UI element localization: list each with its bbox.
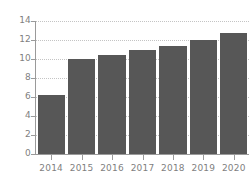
bar bbox=[98, 55, 125, 154]
y-axis-tick-label: 2 bbox=[5, 130, 31, 139]
x-axis-tick-mark bbox=[112, 155, 113, 160]
bar bbox=[38, 95, 65, 154]
x-axis-tick-mark bbox=[234, 155, 235, 160]
x-axis-tick-label: 2020 bbox=[219, 163, 249, 173]
bar bbox=[68, 59, 95, 154]
bar bbox=[220, 33, 247, 154]
y-axis-tick-label: 14 bbox=[5, 16, 31, 25]
y-axis-tick-mark bbox=[31, 21, 36, 22]
x-axis-tick-label: 2019 bbox=[188, 163, 218, 173]
x-axis-tick-mark bbox=[173, 155, 174, 160]
x-axis-tick-mark bbox=[143, 155, 144, 160]
y-axis-tick-mark bbox=[31, 97, 36, 98]
x-axis-tick-label: 2016 bbox=[97, 163, 127, 173]
bar-chart: 02468101214 2014201520162017201820192020 bbox=[0, 0, 251, 184]
y-axis-tick-mark bbox=[31, 135, 36, 136]
bar bbox=[129, 50, 156, 154]
y-axis: 02468101214 bbox=[0, 0, 31, 184]
y-axis-tick-mark bbox=[31, 59, 36, 60]
y-axis-tick-mark bbox=[31, 116, 36, 117]
y-axis-tick-label: 4 bbox=[5, 111, 31, 120]
y-axis-tick-label: 10 bbox=[5, 54, 31, 63]
gridline bbox=[36, 21, 249, 22]
y-axis-tick-mark bbox=[31, 40, 36, 41]
plot-area bbox=[36, 21, 249, 154]
x-axis-tick-mark bbox=[51, 155, 52, 160]
y-axis-tick-label: 12 bbox=[5, 35, 31, 44]
y-axis-tick-label: 8 bbox=[5, 73, 31, 82]
x-axis-tick-mark bbox=[82, 155, 83, 160]
y-axis-tick-label: 6 bbox=[5, 92, 31, 101]
y-axis-tick-mark bbox=[31, 78, 36, 79]
y-axis-tick-label: 0 bbox=[5, 149, 31, 158]
x-axis-tick-label: 2015 bbox=[66, 163, 96, 173]
x-axis-tick-label: 2017 bbox=[127, 163, 157, 173]
y-axis-tick-mark bbox=[31, 154, 36, 155]
bar bbox=[190, 40, 217, 154]
x-axis-tick-label: 2018 bbox=[158, 163, 188, 173]
x-axis-tick-mark bbox=[203, 155, 204, 160]
bar bbox=[159, 46, 186, 154]
x-axis-tick-label: 2014 bbox=[36, 163, 66, 173]
